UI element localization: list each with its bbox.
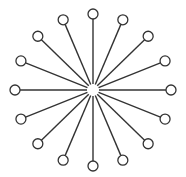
star-network-diagram [0,0,186,177]
spokes-group [20,19,166,161]
leaf-node [10,85,20,95]
leaf-node [33,139,43,149]
leaf-node [88,161,98,171]
leaf-node [143,31,153,41]
leaf-node [118,15,128,25]
leaf-node [33,31,43,41]
leaf-node [58,15,68,25]
leaf-node [166,85,176,95]
leaf-node [143,139,153,149]
leaf-node [16,114,26,124]
leaf-node [16,56,26,66]
leaf-node [160,114,170,124]
leaf-node [160,56,170,66]
leaf-node [118,155,128,165]
leaf-node [88,9,98,19]
leaf-node [58,155,68,165]
